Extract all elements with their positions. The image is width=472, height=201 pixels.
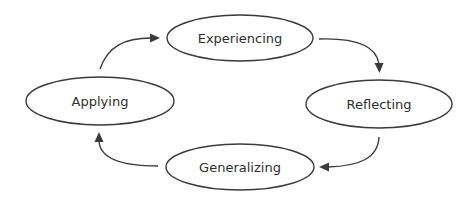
node-label-experiencing: Experiencing — [198, 31, 283, 46]
learning-cycle-diagram: Experiencing Reflecting Generalizing App… — [0, 0, 472, 201]
edge-experiencing-to-reflecting — [319, 39, 384, 73]
edge-applying-to-experiencing — [100, 34, 160, 70]
arrowhead-icon — [319, 163, 329, 172]
node-label-reflecting: Reflecting — [347, 97, 412, 112]
arrowhead-icon — [95, 132, 104, 142]
node-applying: Applying — [26, 77, 174, 125]
node-label-generalizing: Generalizing — [199, 160, 281, 175]
node-experiencing: Experiencing — [167, 15, 313, 61]
node-reflecting: Reflecting — [306, 80, 452, 128]
arrowhead-icon — [375, 63, 384, 73]
node-generalizing: Generalizing — [166, 144, 314, 190]
edge-generalizing-to-applying — [95, 132, 159, 166]
arrowhead-icon — [150, 34, 160, 43]
edge-reflecting-to-generalizing — [319, 137, 379, 172]
node-label-applying: Applying — [72, 94, 129, 109]
